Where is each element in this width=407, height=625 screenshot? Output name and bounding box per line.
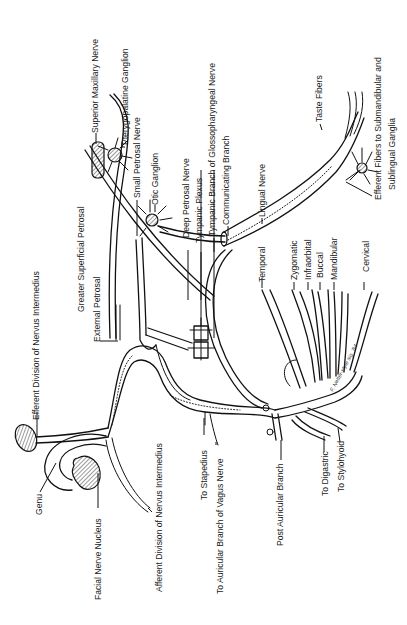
label-post-auricular-branch: Post Auricular Branch xyxy=(275,463,285,546)
label-otic-ganglion: Otic Ganglion xyxy=(150,153,160,205)
label-small-petrosal-nerve: Small Petrosal Nerve xyxy=(132,117,142,198)
label-temporal: Temporal xyxy=(257,247,267,282)
label-efferent-division-nervus-intermedius: Efferent Division of Nervus Intermedius xyxy=(31,271,41,420)
nerve-drawing xyxy=(11,92,378,512)
label-to-auricular-branch-vagus: To Auricular Branch of Vagus Nerve xyxy=(215,458,225,594)
main-trunk-upper xyxy=(108,346,275,428)
label-afferent-division-nervus-intermedius: Afferent Division of Nervus Intermedius xyxy=(154,443,164,592)
label-cervical: Cervical xyxy=(361,241,371,272)
label-lingual-nerve: Lingual Nerve xyxy=(257,164,267,217)
label-facial-nerve-nucleus: Facial Nerve Nucleus xyxy=(93,518,103,600)
lingual-nerve xyxy=(224,112,358,232)
label-to-stapedius: To Stapedius xyxy=(199,450,209,500)
label-taste-fibers: Taste Fibers xyxy=(314,75,324,122)
superior-maxillary-nerve-shape xyxy=(92,142,104,178)
label-pterygopalatine-ganglion: Pterygopalatine Ganglion xyxy=(120,48,130,145)
label-communicating-branch: Communicating Branch xyxy=(221,135,231,225)
label-tympanic-branch-glossopharyngeal: Tympanic Branch of Glossopharyngeal Nerv… xyxy=(207,63,217,236)
label-external-petrosal: External Petrosal xyxy=(92,276,102,342)
facial-nerve-nucleus-shape xyxy=(72,456,100,489)
label-to-stylohyoid: To Stylohyoid xyxy=(336,441,346,492)
label-mandibular: Mandibular xyxy=(329,237,339,280)
label-buccal: Buccal xyxy=(315,252,325,278)
label-sublingual-ganglia: Sublingual Ganglia xyxy=(387,118,397,190)
label-zygomatic: Zygomatic xyxy=(289,240,299,280)
efferent-nucleus-shape xyxy=(11,421,41,455)
label-genu: Genu xyxy=(34,494,44,515)
facial-nerve-diagram: F. Netter-style sig. '84 Superior Maxill… xyxy=(0,0,407,625)
label-superior-maxillary-nerve: Superior Maxillary Nerve xyxy=(90,39,100,133)
label-greater-superficial-petrosal: Greater Superficial Petrosal xyxy=(76,206,86,312)
label-efferent-fibers-submandibular: Efferent Fibers to Submandibular and xyxy=(373,57,383,200)
label-to-digastric: To Digastric xyxy=(320,450,330,496)
artist-signature: F. Netter-style sig. '84 xyxy=(329,343,359,392)
peripheral-branches xyxy=(262,290,378,388)
label-infraorbital: Infraorbital xyxy=(303,239,313,280)
label-deep-petrosal-nerve: Deep Petrosal Nerve xyxy=(181,158,191,238)
label-tympanic-plexus: Tympanic Plexus xyxy=(194,178,204,243)
